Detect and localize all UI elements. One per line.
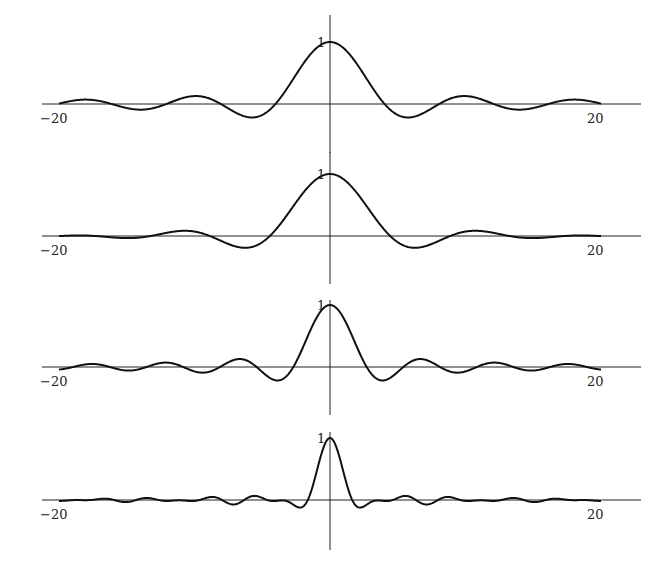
x-min-tick-label: −20 xyxy=(40,243,67,258)
peak-label: 1 xyxy=(317,298,325,313)
panel-3: 1−2020 xyxy=(40,298,641,415)
panel-4: 1−2020 xyxy=(40,431,641,550)
x-min-tick-label: −20 xyxy=(40,374,67,389)
panel-2: 1−2020 xyxy=(40,152,641,284)
x-max-tick-label: 20 xyxy=(587,507,604,522)
figure-canvas: 1−20201−20201−20201−2020 xyxy=(0,0,652,582)
peak-label: 1 xyxy=(317,431,325,446)
x-max-tick-label: 20 xyxy=(587,243,604,258)
x-max-tick-label: 20 xyxy=(587,374,604,389)
panel-1: 1−2020 xyxy=(40,15,641,153)
x-min-tick-label: −20 xyxy=(40,111,67,126)
peak-label: 1 xyxy=(317,167,325,182)
x-min-tick-label: −20 xyxy=(40,507,67,522)
peak-label: 1 xyxy=(317,35,325,50)
x-max-tick-label: 20 xyxy=(587,111,604,126)
